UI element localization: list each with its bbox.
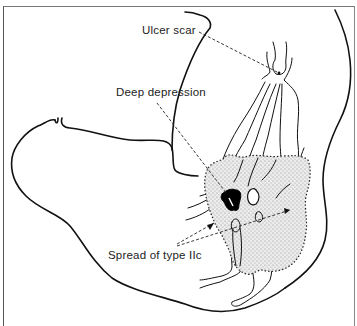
label-spread-type-iic: Spread of type IIc <box>108 249 202 261</box>
label-deep-depression: Deep depression <box>116 86 206 98</box>
ulcer-scar-point <box>278 72 281 75</box>
label-ulcer-scar: Ulcer scar <box>142 24 196 36</box>
leader-ulcer-scar <box>199 32 277 72</box>
type-iic-spread-region <box>205 155 310 275</box>
leader-deep-depression <box>157 103 227 194</box>
small-nodule <box>248 189 259 205</box>
